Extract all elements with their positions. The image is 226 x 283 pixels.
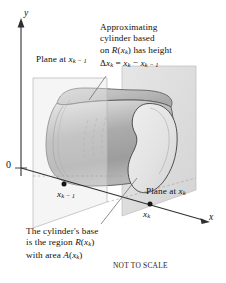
label-plane-at-xk-minus-1: Plane at xk − 1 — [36, 54, 87, 67]
point-xk-minus-1 — [62, 182, 67, 187]
label-point-xk-minus-1: xk − 1 — [57, 189, 75, 202]
point-xk — [148, 202, 153, 207]
label-point-xk: xk — [143, 209, 150, 222]
annotation-cylinder-base: The cylinder's base is the region R(xk) … — [26, 226, 98, 263]
approx-line-4: Δxk = xk − xk − 1 — [100, 58, 159, 68]
label-x-axis: x — [209, 212, 213, 222]
plane-at-xk-minus-1 — [33, 78, 107, 228]
figure-container: Approximating cylinder based on R(xk) ha… — [0, 0, 226, 283]
annotation-approximating-cylinder: Approximating cylinder based on R(xk) ha… — [100, 22, 172, 71]
base-line-2: is the region R(xk) — [26, 237, 94, 247]
caption-not-to-scale: NOT TO SCALE — [113, 261, 168, 270]
label-origin: 0 — [6, 159, 11, 170]
approx-line-3: on R(xk) has height — [100, 45, 172, 55]
y-axis — [15, 18, 27, 176]
base-line-3: with area A(xk) — [26, 250, 82, 260]
approx-line-1: Approximating — [100, 22, 157, 32]
approx-line-2: cylinder based — [100, 33, 155, 43]
label-y-axis: y — [24, 8, 28, 18]
base-line-1: The cylinder's base — [26, 226, 98, 236]
label-plane-at-xk: Plane at xk — [146, 186, 186, 199]
